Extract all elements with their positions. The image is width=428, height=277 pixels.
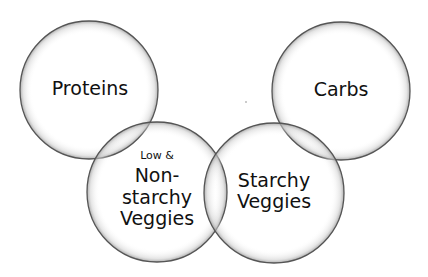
label-carbs: Carbs [281,79,401,100]
label-starchy-veggies: Starchy Veggies [214,170,334,213]
veggies-text: Veggies [97,208,217,229]
proteins-text: Proteins [52,77,129,99]
label-proteins: Proteins [30,78,150,99]
starchy-veggies-line2: Veggies [214,191,334,212]
carbs-text: Carbs [314,78,369,100]
starchy-veggies-line1: Starchy [214,170,334,191]
low-and-text: Low & [97,150,217,162]
starchy-text: starchy [97,187,217,208]
label-non-starchy-veggies: Low & Non- starchy Veggies [97,150,217,229]
speck [245,101,247,103]
venn-diagram [0,0,428,277]
non-text: Non- [97,165,217,186]
